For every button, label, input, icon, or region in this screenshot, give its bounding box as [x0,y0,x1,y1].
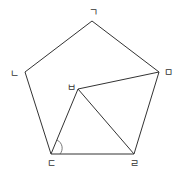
segment-b-r [78,89,134,154]
label-b: ㅂ [67,82,76,93]
label-m: ㅁ [164,67,173,78]
angle-arc-d [57,140,62,154]
label-n: ㄴ [10,68,19,79]
label-d: ㄷ [47,158,56,169]
label-g: ㄱ [89,7,98,18]
label-r: ㄹ [130,158,139,169]
segment-b-m [78,72,159,89]
pentagon [25,21,159,154]
segment-d-b [51,89,78,154]
pentagon-diagram: ㄱ ㄴ ㄷ ㄹ ㅁ ㅂ [0,0,183,179]
